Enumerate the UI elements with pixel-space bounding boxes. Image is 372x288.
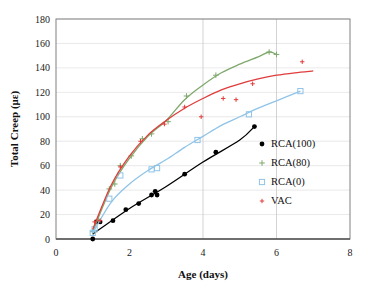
data-point-0-6 (149, 193, 154, 198)
chart-container: 020406080100120140160180 02468 Age (days… (0, 0, 372, 288)
total-creep-vs-age-chart: 020406080100120140160180 02468 Age (days… (0, 0, 372, 288)
y-tick-label-0: 0 (45, 234, 50, 245)
y-tick-label-100: 100 (35, 111, 50, 122)
x-tick-label-6: 6 (274, 247, 279, 258)
data-point-0-3 (111, 218, 116, 223)
y-tick-label-20: 20 (40, 209, 50, 220)
y-axis-title: Total Creep (με) (8, 91, 21, 168)
y-tick-label-140: 140 (35, 62, 50, 73)
legend-label-2: RCA(0) (271, 176, 305, 188)
legend-label-0: RCA(100) (271, 138, 316, 150)
x-tick-label-0: 0 (54, 247, 59, 258)
data-point-0-0 (90, 237, 95, 242)
data-point-0-8 (155, 193, 160, 198)
data-point-0-11 (252, 124, 257, 129)
y-tick-label-120: 120 (35, 87, 50, 98)
data-point-0-4 (123, 207, 128, 212)
data-point-0-10 (213, 150, 218, 155)
y-tick-label-160: 160 (35, 38, 50, 49)
x-tick-label-2: 2 (127, 247, 132, 258)
data-point-0-5 (136, 201, 141, 206)
y-tick-label-60: 60 (40, 160, 50, 171)
data-point-0-9 (182, 172, 187, 177)
y-tick-label-40: 40 (40, 185, 50, 196)
y-tick-label-80: 80 (40, 136, 50, 147)
x-axis-title: Age (days) (178, 268, 228, 281)
legend-label-3: VAC (271, 195, 292, 206)
legend-marker-filled-circle-icon (260, 142, 265, 147)
legend-label-1: RCA(80) (271, 157, 311, 169)
y-tick-label-180: 180 (35, 14, 50, 25)
x-tick-label-8: 8 (348, 247, 353, 258)
x-tick-label-4: 4 (201, 247, 206, 258)
